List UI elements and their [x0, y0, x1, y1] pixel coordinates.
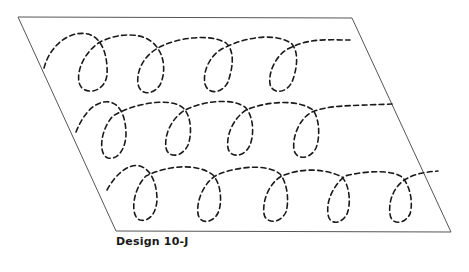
parallelogram-frame: [18, 17, 451, 232]
figure-caption: Design 10-J: [116, 235, 189, 248]
top-row-loop-path: [44, 33, 350, 92]
quilting-design-diagram: [0, 0, 469, 272]
bottom-row-loop-path: [107, 166, 438, 223]
middle-row-loop-path: [76, 101, 392, 158]
